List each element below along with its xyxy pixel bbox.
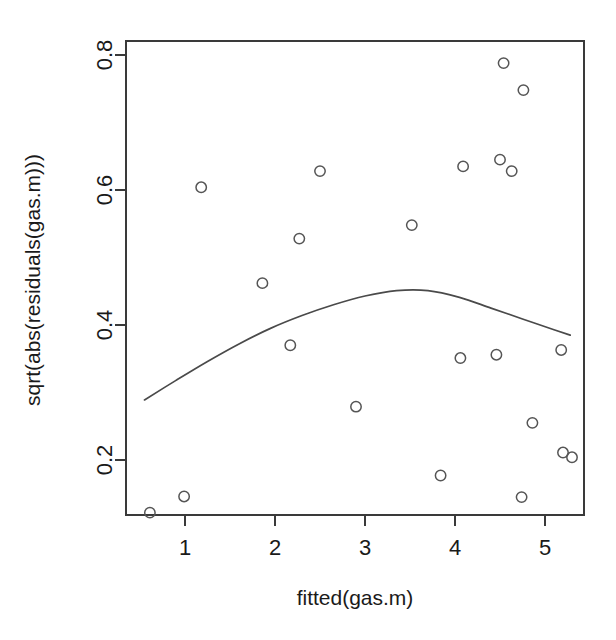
- data-point: [351, 401, 361, 411]
- y-tick-label: 0.4: [92, 310, 117, 341]
- plot-canvas: 12345 0.20.40.60.8 fitted(gas.m) sqrt(ab…: [0, 0, 616, 640]
- plot-panel-border: [126, 41, 584, 515]
- y-tick-label: 0.6: [92, 175, 117, 206]
- data-point: [145, 507, 155, 517]
- data-point: [294, 233, 304, 243]
- data-point: [455, 353, 465, 363]
- data-point: [491, 350, 501, 360]
- data-point: [285, 340, 295, 350]
- data-point: [315, 166, 325, 176]
- scatter-points: [145, 58, 578, 518]
- x-axis-title: fitted(gas.m): [297, 586, 414, 609]
- y-axis-ticks: [115, 55, 126, 460]
- x-tick-label: 5: [539, 535, 551, 560]
- x-axis-ticks: [185, 515, 545, 526]
- data-point: [527, 418, 537, 428]
- data-point: [179, 491, 189, 501]
- x-axis-tick-labels: 12345: [179, 535, 551, 560]
- data-point: [516, 492, 526, 502]
- data-point: [495, 154, 505, 164]
- data-point: [567, 452, 577, 462]
- smoother-line: [145, 290, 571, 400]
- data-point: [507, 166, 517, 176]
- data-point: [458, 161, 468, 171]
- x-tick-label: 4: [449, 535, 461, 560]
- scale-location-plot: 12345 0.20.40.60.8 fitted(gas.m) sqrt(ab…: [0, 0, 616, 640]
- y-tick-label: 0.2: [92, 445, 117, 476]
- data-point: [435, 470, 445, 480]
- data-point: [556, 345, 566, 355]
- data-point: [518, 85, 528, 95]
- data-point: [196, 182, 206, 192]
- x-tick-label: 3: [359, 535, 371, 560]
- y-axis-tick-labels: 0.20.40.60.8: [92, 40, 117, 476]
- data-point: [498, 58, 508, 68]
- y-axis-title: sqrt(abs(residuals(gas.m))): [21, 154, 44, 406]
- x-tick-label: 2: [269, 535, 281, 560]
- x-tick-label: 1: [179, 535, 191, 560]
- lowess-smoother-curve: [145, 290, 571, 400]
- data-point: [257, 278, 267, 288]
- y-tick-label: 0.8: [92, 40, 117, 71]
- data-point: [407, 220, 417, 230]
